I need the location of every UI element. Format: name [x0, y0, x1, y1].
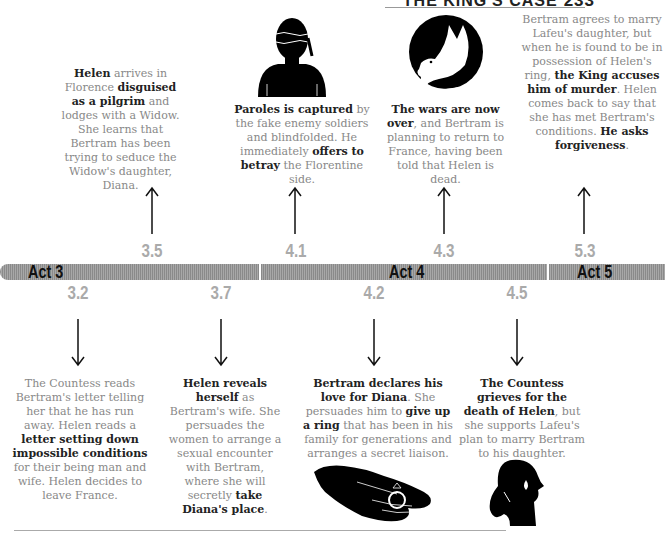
act-4-bar: Act 4	[261, 264, 547, 280]
blindfolded-man-icon	[255, 12, 329, 97]
act-5-bar: Act 5	[549, 264, 665, 280]
page-number: 233	[564, 0, 595, 10]
running-header: THE KING'S CASE233	[403, 0, 595, 11]
scene-4-3: 4.3	[428, 240, 460, 262]
scene-3-7: 3.7	[205, 282, 237, 304]
event-4-2-text: Bertram declares his love for Diana. She…	[303, 377, 453, 461]
up-arrow-icon	[288, 186, 302, 236]
act-4-label: Act 4	[389, 264, 424, 280]
down-arrow-icon	[367, 317, 381, 367]
scene-5-3: 5.3	[569, 240, 601, 262]
scene-4-5: 4.5	[501, 282, 533, 304]
act-3-bar: Act 3	[0, 264, 259, 280]
event-4-1-text: Paroles is captured by the fake enemy so…	[228, 103, 376, 187]
event-4-5-text: The Countess grieves for the death of He…	[458, 377, 586, 461]
up-arrow-icon	[437, 186, 451, 236]
act-3-label: Act 3	[28, 264, 63, 280]
crying-woman-icon	[482, 458, 552, 528]
act-5-label: Act 5	[577, 264, 612, 280]
hand-with-ring-icon	[312, 460, 442, 524]
event-3-5-text: Helen arrives in Florence disguised as a…	[58, 67, 183, 193]
event-5-3-text: Bertram agrees to marry Lafeu's daughter…	[520, 13, 664, 153]
event-3-2-text: The Countess reads Bertram's letter tell…	[10, 377, 150, 503]
header-rule	[385, 7, 585, 8]
dove-icon	[407, 13, 485, 91]
footer-rule	[14, 530, 506, 531]
down-arrow-icon	[510, 317, 524, 367]
down-arrow-icon	[71, 317, 85, 367]
event-3-7-text: Helen reveals herself as Bertram's wife.…	[167, 377, 283, 517]
up-arrow-icon	[145, 186, 159, 236]
event-4-3-text: The wars are now over, and Bertram is pl…	[383, 103, 508, 187]
scene-3-5: 3.5	[136, 240, 168, 262]
down-arrow-icon	[214, 317, 228, 367]
scene-4-2: 4.2	[358, 282, 390, 304]
up-arrow-icon	[577, 186, 591, 236]
scene-4-1: 4.1	[280, 240, 312, 262]
scene-3-2: 3.2	[62, 282, 94, 304]
